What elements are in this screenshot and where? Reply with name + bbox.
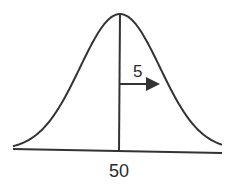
normal-curve-diagram: 5 50 (0, 0, 234, 188)
mean-line (119, 14, 120, 152)
bell-curve (13, 14, 222, 146)
sd-arrow-head (146, 77, 160, 91)
sd-label: 5 (133, 62, 142, 81)
mean-label: 50 (109, 161, 129, 181)
baseline-axis (13, 149, 222, 153)
